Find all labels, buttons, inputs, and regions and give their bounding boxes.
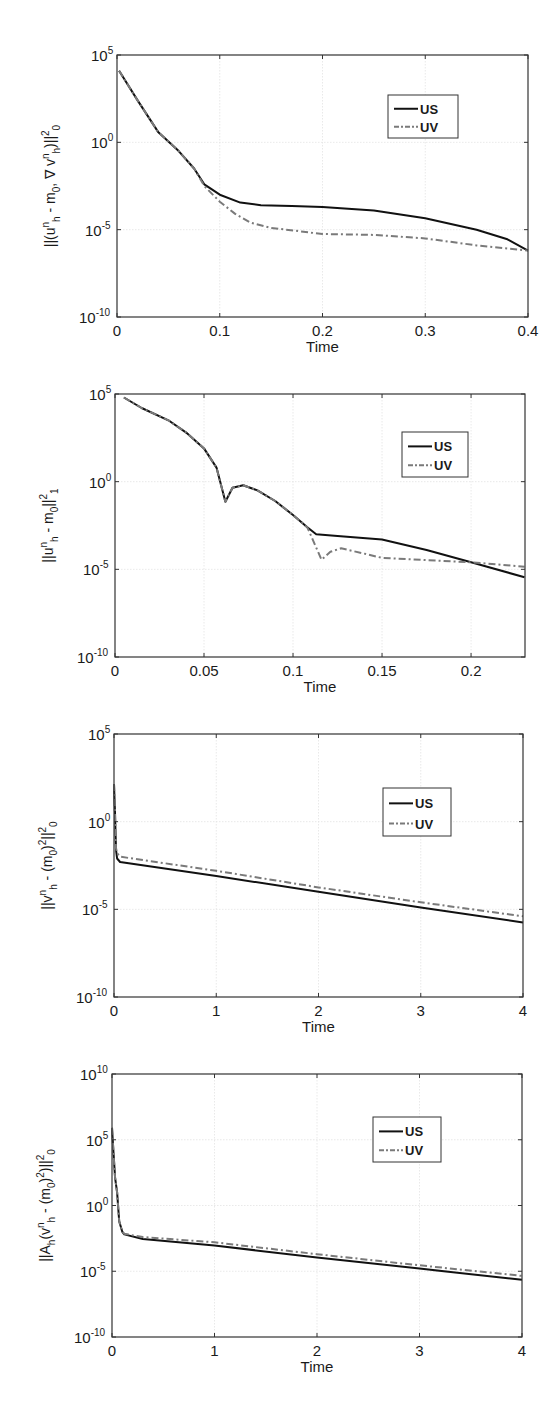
y-tick-label: 100 <box>89 472 112 491</box>
x-tick-label: 4 <box>519 1002 527 1019</box>
x-tick-label: 0.3 <box>415 322 436 339</box>
x-axis-label: Time <box>306 338 339 355</box>
x-tick-label: 0.2 <box>312 322 333 339</box>
x-tick-label: 0.1 <box>283 662 304 679</box>
legend: USUV <box>388 95 458 138</box>
y-tick-label: 10-10 <box>74 1327 106 1346</box>
x-tick-label: 0.4 <box>518 322 539 339</box>
y-axis-label: ||vnh - (m0)2||20 <box>37 821 59 910</box>
x-tick-label: 0.05 <box>189 662 218 679</box>
x-tick-label: 0 <box>108 1342 116 1359</box>
y-tick-label: 100 <box>88 812 111 831</box>
legend-label-us: US <box>415 796 433 811</box>
x-tick-label: 1 <box>212 1002 220 1019</box>
x-axis-label: Time <box>302 1018 335 1035</box>
legend: USUV <box>402 432 468 477</box>
y-axis-label: ||Ah(vnh - (m0)2)||20 <box>35 1149 57 1262</box>
legend: USUV <box>383 788 451 836</box>
x-axis-label: Time <box>304 678 337 695</box>
legend-label-us: US <box>420 102 438 117</box>
y-tick-label: 10-5 <box>85 220 111 239</box>
y-tick-label: 105 <box>89 384 112 403</box>
chart-3-v-error: 0123410-1010-5100105Time||vnh - (m0)2||2… <box>37 724 527 1035</box>
legend-label-uv: UV <box>415 817 433 832</box>
x-tick-label: 0.15 <box>367 662 396 679</box>
x-axis-label: Time <box>301 1358 334 1375</box>
x-tick-label: 0.1 <box>209 322 230 339</box>
figure-stage: 00.10.20.30.410-1010-5100105Time||(unh -… <box>0 0 560 1411</box>
x-tick-label: 1 <box>210 1342 218 1359</box>
y-tick-label: 105 <box>91 45 114 64</box>
legend-label-uv: UV <box>434 458 452 473</box>
y-tick-label: 105 <box>88 724 111 743</box>
y-axis-label: ||unh - m0||21 <box>38 488 60 563</box>
x-tick-label: 3 <box>415 1342 423 1359</box>
y-axis-label: ||(unh - m0, ∇ vnh)||20 <box>40 124 62 247</box>
x-tick-label: 0.2 <box>461 662 482 679</box>
x-tick-label: 4 <box>518 1342 526 1359</box>
legend: USUV <box>373 1117 441 1162</box>
x-tick-label: 0 <box>110 1002 118 1019</box>
chart-2-h1-error: 00.050.10.150.210-1010-5100105Time||unh … <box>38 384 525 695</box>
y-tick-label: 10-10 <box>76 987 108 1006</box>
legend-label-uv: UV <box>420 120 438 135</box>
y-tick-label: 1010 <box>80 1064 108 1083</box>
y-tick-label: 100 <box>91 132 114 151</box>
y-tick-label: 10-5 <box>83 559 109 578</box>
x-tick-label: 0 <box>113 322 121 339</box>
y-tick-label: 10-5 <box>82 899 108 918</box>
legend-label-us: US <box>434 439 452 454</box>
y-tick-label: 10-10 <box>77 647 109 666</box>
y-tick-label: 10-5 <box>80 1261 106 1280</box>
x-tick-label: 2 <box>313 1342 321 1359</box>
y-tick-label: 105 <box>86 1130 109 1149</box>
y-tick-label: 10-10 <box>79 307 111 326</box>
legend-label-uv: UV <box>405 1143 423 1158</box>
x-tick-label: 2 <box>314 1002 322 1019</box>
chart-1-us-uv-error: 00.10.20.30.410-1010-5100105Time||(unh -… <box>40 45 538 355</box>
y-tick-label: 100 <box>86 1196 109 1215</box>
x-tick-label: 3 <box>417 1002 425 1019</box>
chart-4-ah-error: 0123410-1010-51001051010Time||Ah(vnh - (… <box>35 1064 526 1375</box>
legend-label-us: US <box>405 1124 423 1139</box>
x-tick-label: 0 <box>111 662 119 679</box>
